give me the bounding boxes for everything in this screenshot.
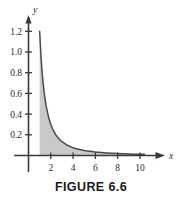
y-axis-label: y: [32, 5, 38, 15]
x-axis-label: x: [168, 151, 174, 161]
x-axis-arrow-icon: [156, 152, 166, 159]
x-tick-label: 10: [135, 163, 145, 173]
x-tick-label: 4: [71, 163, 76, 173]
y-tick-label: 0.2: [10, 130, 22, 140]
y-tick-label: 1.0: [10, 47, 22, 57]
y-axis-arrow-icon: [25, 15, 31, 24]
y-tick-label: 1.2: [10, 27, 22, 37]
x-tick-label: 2: [48, 163, 53, 173]
y-tick-label: 0.6: [10, 89, 22, 99]
plot-area: y x 0.20.40.60.81.01.2 246810: [0, 0, 182, 178]
x-tick-label: 6: [93, 163, 98, 173]
chart-svg: y x 0.20.40.60.81.01.2 246810: [0, 0, 182, 178]
y-tick-label: 0.8: [10, 68, 22, 78]
y-tick-label: 0.4: [10, 110, 22, 120]
shaded-area: [40, 31, 145, 155]
x-tick-label: 8: [115, 163, 120, 173]
figure-caption: FIGURE 6.6: [0, 180, 182, 194]
figure-container: y x 0.20.40.60.81.01.2 246810 FIGURE 6.6: [0, 0, 182, 202]
